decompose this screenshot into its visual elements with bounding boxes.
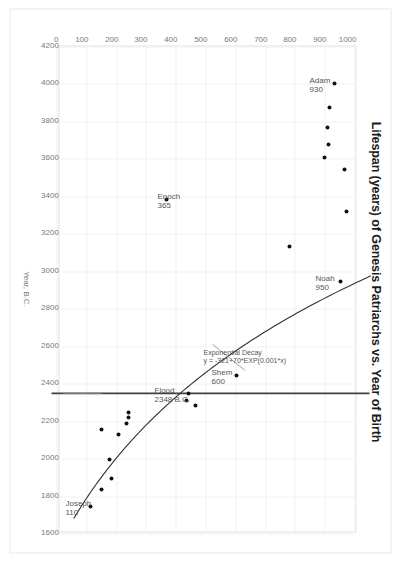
flood-label-line1: Flood	[154, 386, 190, 395]
y-axis-tick: 1000	[338, 35, 356, 44]
y-axis-tick: 800	[283, 35, 296, 44]
fit-label-line1: Exponential Decay	[203, 348, 286, 356]
shem-label: Shem600	[211, 368, 232, 386]
x-axis-tick: 1800	[41, 490, 59, 499]
flood-label: Flood2348 B.C.	[154, 386, 190, 404]
y-axis-tick: 700	[253, 35, 266, 44]
y-axis-tick: 200	[104, 35, 117, 44]
chart-figure: Lifespan (years) of Genesis Patriarchs v…	[0, 0, 401, 561]
x-axis-title: Year, B.C.	[21, 45, 30, 532]
x-axis-tick-labels: 4200400038003600340032003000280026002400…	[30, 45, 56, 532]
noah-label-line2: 950	[315, 282, 334, 291]
leader-lines-svg	[57, 46, 355, 533]
noah-label-line1: Noah	[315, 274, 334, 283]
fit-label-line2: y = -321+70*EXP(0.001*x)	[203, 356, 286, 364]
joseph-label: Joseph110	[65, 499, 91, 517]
y-axis-tick: 500	[194, 35, 207, 44]
x-axis-tick: 2400	[41, 378, 59, 387]
noah-label: Noah950	[315, 274, 334, 292]
shem-label-line2: 600	[211, 376, 232, 385]
x-axis-tick: 2600	[41, 340, 59, 349]
x-axis-tick: 3400	[41, 190, 59, 199]
y-axis-tick: 400	[164, 35, 177, 44]
plot-area	[58, 45, 356, 532]
chart-title: Lifespan (years) of Genesis Patriarchs v…	[368, 9, 382, 554]
y-axis-tick: 900	[313, 35, 326, 44]
y-axis-tick: 300	[134, 35, 147, 44]
x-axis-tick: 3200	[41, 228, 59, 237]
y-axis-tick-labels: 01002003004005006007008009001000	[58, 9, 356, 43]
y-axis-tick: 100	[74, 35, 87, 44]
x-axis-tick: 2800	[41, 303, 59, 312]
x-axis-tick: 2000	[41, 453, 59, 462]
joseph-label-line1: Joseph	[65, 499, 91, 508]
x-axis-tick: 4000	[41, 78, 59, 87]
x-axis-tick: 3000	[41, 265, 59, 274]
fit-label: Exponential Decayy = -321+70*EXP(0.001*x…	[203, 348, 286, 364]
flood-label-line2: 2348 B.C.	[154, 395, 190, 404]
x-axis-tick: 3600	[41, 153, 59, 162]
adam-label: Adam930	[309, 76, 330, 94]
y-axis-tick: 600	[223, 35, 236, 44]
enoch-label: Enoch365	[157, 192, 180, 210]
adam-label-line2: 930	[309, 85, 330, 94]
shem-label-line1: Shem	[211, 368, 232, 377]
enoch-label-line2: 365	[157, 201, 180, 210]
x-axis-tick: 3800	[41, 115, 59, 124]
chart-frame: Lifespan (years) of Genesis Patriarchs v…	[9, 8, 391, 553]
joseph-label-line2: 110	[65, 508, 91, 517]
x-axis-tick: 2200	[41, 415, 59, 424]
y-axis-tick: 0	[54, 35, 58, 44]
x-axis-tick: 1600	[41, 528, 59, 537]
adam-label-line1: Adam	[309, 76, 330, 85]
annotation-leader-lines	[59, 46, 355, 531]
